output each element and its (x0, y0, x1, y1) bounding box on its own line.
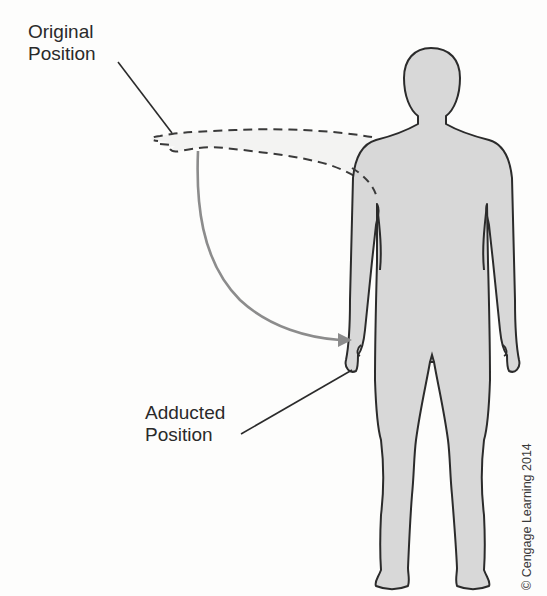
label-original-position: Original Position (28, 21, 96, 65)
leader-line-adducted (241, 370, 352, 434)
label-adducted-line2: Position (145, 424, 225, 446)
diagram-canvas: Original Position Adducted Position © Ce… (0, 0, 547, 596)
label-original-line1: Original (28, 21, 96, 43)
copyright-notice: © Cengage Learning 2014 (520, 443, 534, 590)
label-original-line2: Position (28, 43, 96, 65)
human-body-silhouette (346, 48, 520, 589)
leader-line-original (118, 62, 172, 133)
label-adducted-position: Adducted Position (145, 402, 225, 446)
motion-arrow (198, 151, 352, 347)
adduction-figure (0, 0, 547, 596)
original-arm-dashed-outline (151, 129, 378, 197)
label-adducted-line1: Adducted (145, 402, 225, 424)
